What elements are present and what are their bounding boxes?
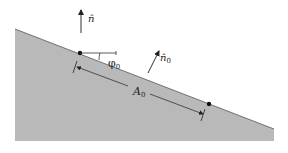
surface-normal-arrow [148,51,159,73]
angle-arc [99,53,100,60]
sloped-surface [15,29,274,141]
inclined-surface-diagram: n̂ φ0 n̂0 A0 [0,0,288,153]
surface-normal-label: n̂0 [160,52,171,65]
reference-point-lower [207,102,211,106]
angle-label: φ0 [108,57,120,71]
vertical-normal-label: n̂ [88,13,94,24]
